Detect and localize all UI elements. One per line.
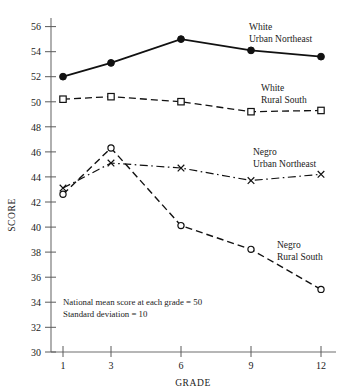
y-tick-50: 50 <box>31 97 41 108</box>
y-tick-46: 46 <box>31 147 41 158</box>
y-tick-30: 30 <box>31 347 41 358</box>
data-point-negro-rural-south-grade-1 <box>60 191 66 197</box>
series-label-negro-rural-south: Negro Rural South <box>277 240 323 262</box>
data-point-white-urban-northeast-grade-1 <box>60 73 67 80</box>
series-line-white-urban-northeast <box>63 39 321 77</box>
data-point-white-urban-northeast-grade-6 <box>178 36 185 43</box>
y-tick-40: 40 <box>31 222 41 233</box>
label-white-rural-line2: Rural South <box>261 95 307 105</box>
x-tick-1: 1 <box>61 360 66 371</box>
chart-annotations: National mean score at each grade = 50 S… <box>63 297 203 319</box>
series-line-negro-rural-south <box>63 148 321 289</box>
label-white-urban-line2: Urban Northeast <box>249 34 312 44</box>
data-point-white-rural-south-grade-1 <box>60 96 66 102</box>
x-tick-12: 12 <box>316 360 326 371</box>
data-point-negro-rural-south-grade-3 <box>108 145 114 151</box>
y-tick-52: 52 <box>31 71 41 82</box>
label-negro-urban-line2: Urban Northeast <box>253 159 316 169</box>
data-point-negro-urban-northeast-grade-12 <box>318 171 325 178</box>
label-white-rural-line1: White <box>261 83 284 93</box>
x-axis-title: GRADE <box>175 378 211 388</box>
y-tick-32: 32 <box>31 322 41 333</box>
y-tick-36: 36 <box>31 272 41 283</box>
data-point-negro-rural-south-grade-6 <box>178 222 184 228</box>
label-negro-urban-line1: Negro <box>253 147 277 157</box>
data-point-negro-urban-northeast-grade-9 <box>248 177 255 184</box>
data-point-negro-rural-south-grade-12 <box>318 286 324 292</box>
series-label-white-urban-northeast: White Urban Northeast <box>249 22 312 44</box>
x-tick-3: 3 <box>109 360 114 371</box>
series-label-negro-urban-northeast: Negro Urban Northeast <box>253 147 316 169</box>
y-tick-56: 56 <box>31 21 41 32</box>
y-tick-48: 48 <box>31 122 41 133</box>
data-point-white-urban-northeast-grade-9 <box>248 47 255 54</box>
data-point-white-urban-northeast-grade-3 <box>108 59 115 66</box>
x-tick-6: 6 <box>179 360 184 371</box>
data-point-white-rural-south-grade-12 <box>318 107 324 113</box>
y-tick-54: 54 <box>31 46 41 57</box>
x-tick-9: 9 <box>249 360 254 371</box>
data-point-white-rural-south-grade-6 <box>178 98 184 104</box>
x-tick-labels: 1 3 6 9 12 <box>61 360 327 371</box>
y-tick-42: 42 <box>31 197 41 208</box>
data-point-white-urban-northeast-grade-12 <box>318 53 325 60</box>
data-point-negro-urban-northeast-grade-1 <box>60 185 67 192</box>
label-negro-rural-line2: Rural South <box>277 252 323 262</box>
label-negro-rural-line1: Negro <box>277 240 301 250</box>
y-tick-labels: 56 54 52 50 48 46 44 42 40 38 36 34 32 3… <box>31 21 41 357</box>
y-tick-34: 34 <box>31 297 41 308</box>
y-tick-44: 44 <box>31 172 41 183</box>
y-axis-title: SCORE <box>7 198 17 232</box>
y-tick-38: 38 <box>31 247 41 258</box>
label-white-urban-line1: White <box>249 22 272 32</box>
data-point-negro-rural-south-grade-9 <box>248 246 254 252</box>
data-point-white-rural-south-grade-3 <box>108 93 114 99</box>
annotation-national-mean: National mean score at each grade = 50 <box>63 297 203 307</box>
data-point-white-rural-south-grade-9 <box>248 109 254 115</box>
score-by-grade-line-chart: 56 54 52 50 48 46 44 42 40 38 36 34 32 3… <box>0 0 342 392</box>
annotation-standard-deviation: Standard deviation = 10 <box>63 309 148 319</box>
chart-page: 56 54 52 50 48 46 44 42 40 38 36 34 32 3… <box>0 0 342 392</box>
series-label-white-rural-south: White Rural South <box>261 83 307 105</box>
